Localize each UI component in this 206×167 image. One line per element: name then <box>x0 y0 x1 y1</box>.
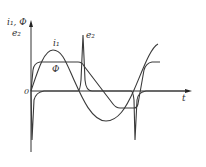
emf-curve <box>31 35 186 140</box>
y-axis-label-line2: e₂ <box>12 28 21 38</box>
current-curve <box>31 44 158 121</box>
flux-curve-label: Φ <box>52 64 59 74</box>
flux-curve <box>31 62 160 108</box>
x-axis-label: t <box>182 93 186 103</box>
waveform-diagram: i₁, Φ e₂ 0 t i₁ e₂ Φ <box>0 0 206 167</box>
y-axis-arrow-icon <box>29 20 33 27</box>
emf-curve-label: e₂ <box>86 30 95 40</box>
x-axis-arrow-icon <box>185 89 192 93</box>
origin-label: 0 <box>24 87 29 96</box>
y-axis-label-line1: i₁, Φ <box>7 17 27 27</box>
current-curve-label: i₁ <box>53 38 60 48</box>
